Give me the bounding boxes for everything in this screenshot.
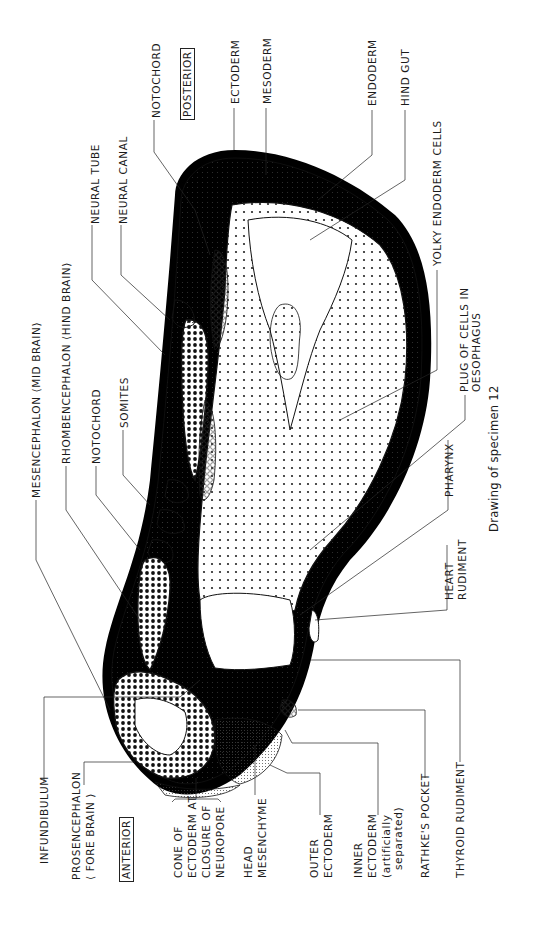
label-cone-line1: CONE OF	[172, 826, 185, 878]
label-cone-line2: ECTODERM AT	[186, 796, 199, 878]
label-ectoderm: ECTODERM	[229, 39, 242, 104]
label-mesoderm: MESODERM	[261, 38, 274, 105]
label-head-mesenchyme-line1: HEAD	[242, 846, 255, 878]
label-posterior: POSTERIOR	[180, 48, 195, 120]
label-heart-line2: RUDIMENT	[456, 539, 469, 600]
label-hind-gut: HIND GUT	[399, 49, 412, 106]
label-head-mesenchyme-line2: MESENCHYME	[256, 798, 269, 878]
label-inner-ectoderm-line4: separated)	[392, 807, 405, 870]
label-rhombencephalon: RHOMBENCEPHALON ⟨HIND BRAIN⟩	[60, 262, 73, 464]
label-plug-of-cells-line2: OESOPHAGUS	[470, 312, 483, 392]
label-endoderm: ENDODERM	[366, 39, 379, 106]
figure-caption: Drawing of specimen 12	[488, 385, 501, 532]
label-notochord-posterior: NOTOCHORD	[150, 43, 163, 118]
label-cone-line3: CLOSURE OF	[200, 805, 213, 878]
embryo-sagittal-section-figure: NOTOCHORD POSTERIOR ECTODERM MESODERM EN…	[0, 0, 541, 936]
label-mesencephalon: MESENCEPHALON ⟨MID BRAIN⟩	[30, 322, 43, 498]
label-thyroid-rudiment: THYROID RUDIMENT	[454, 761, 467, 878]
label-yolky-endoderm-cells: YOLKY ENDODERM CELLS	[431, 120, 444, 266]
label-cone-line4: NEUROPORE	[214, 806, 227, 878]
label-neural-canal: NEURAL CANAL	[117, 136, 130, 224]
label-inner-ectoderm-line2: ECTODERM	[366, 813, 379, 878]
label-heart-line1: HEART	[443, 562, 456, 600]
pharynx-cavity	[200, 593, 295, 669]
label-prosencephalon-line1: PROSENCEPHALON	[70, 772, 83, 880]
label-inner-ectoderm-line1: INNER	[352, 842, 365, 878]
label-infundibulum: INFUNDIBULUM	[38, 776, 51, 864]
label-neural-tube: NEURAL TUBE	[89, 144, 102, 224]
label-somites: SOMITES	[118, 377, 131, 428]
label-pharynx: PHARYNX	[443, 443, 456, 497]
label-outer-ectoderm-line2: ECTODERM	[322, 813, 335, 878]
label-rathkes-pocket: RATHKE'S POCKET	[419, 773, 432, 878]
label-anterior: ANTERIOR	[119, 817, 134, 882]
label-outer-ectoderm-line1: OUTER	[308, 839, 321, 878]
label-prosencephalon-line2: ⟨ FORE BRAIN ⟩	[84, 793, 97, 880]
label-notochord-mid: NOTOCHORD	[90, 389, 103, 464]
